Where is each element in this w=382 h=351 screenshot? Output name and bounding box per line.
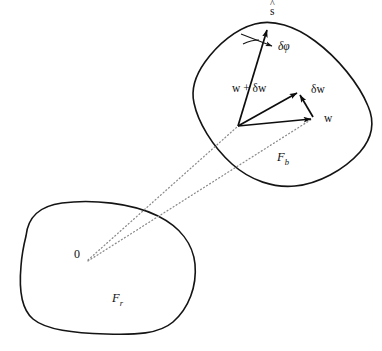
vector-diagram	[0, 0, 382, 351]
ray-to-vector-base	[88, 127, 237, 260]
origin-label: 0	[74, 248, 80, 260]
delta-w-label: δw	[311, 84, 325, 96]
reference-body-outline	[20, 202, 195, 335]
frame-b-subscript: b	[285, 157, 289, 167]
s-hat-accent: ^	[270, 0, 275, 9]
frame-r-subscript: r	[120, 298, 123, 308]
delta-w-vector	[300, 95, 313, 117]
delta-phi-arrow	[241, 34, 272, 46]
frame-r-label: Fr	[112, 292, 123, 307]
figure-canvas: ^s δφ w + δw δw w Fb 0 Fr	[0, 0, 382, 351]
frame-b-letter: F	[277, 150, 285, 164]
w-label: w	[324, 113, 332, 125]
frame-b-label: Fb	[277, 151, 289, 166]
frame-r-letter: F	[112, 291, 120, 305]
w-plus-delta-w-label: w + δw	[232, 83, 266, 95]
s-hat-label: ^s	[270, 6, 274, 18]
ray-to-w-tip	[88, 119, 312, 261]
delta-phi-label: δφ	[278, 41, 290, 53]
